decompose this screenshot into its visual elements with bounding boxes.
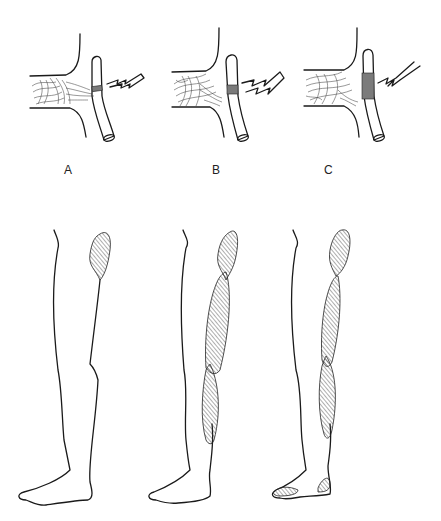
panel-label-b: B bbox=[212, 163, 220, 177]
panel-label-a: A bbox=[64, 163, 72, 177]
hatched-region-toes bbox=[273, 487, 298, 496]
panel-c-nerve-diagram bbox=[304, 28, 420, 142]
leg-b bbox=[149, 230, 238, 503]
hatched-region-upper-thigh bbox=[90, 233, 111, 280]
lightning-icon bbox=[107, 74, 144, 88]
leg-c bbox=[273, 230, 350, 499]
lightning-icon bbox=[242, 72, 284, 94]
hatched-region-upper-thigh bbox=[218, 231, 238, 280]
lightning-icon bbox=[378, 62, 420, 86]
leg-a bbox=[19, 230, 110, 505]
disc-fibers-c bbox=[306, 72, 358, 106]
hatched-region-calf bbox=[319, 356, 335, 438]
panel-b-nerve-diagram bbox=[172, 28, 284, 142]
hatched-region-thigh bbox=[321, 276, 340, 366]
panel-label-c: C bbox=[324, 163, 333, 177]
hatched-region-upper-thigh bbox=[329, 230, 350, 276]
hatched-region-calf bbox=[202, 364, 218, 444]
figure-canvas bbox=[0, 0, 441, 521]
disc-fibers-a bbox=[32, 78, 94, 104]
panel-a-nerve-diagram bbox=[30, 34, 144, 142]
hatched-region-thigh bbox=[206, 272, 230, 374]
disc-fibers-b bbox=[174, 74, 222, 106]
hatched-region-heel bbox=[318, 478, 330, 492]
